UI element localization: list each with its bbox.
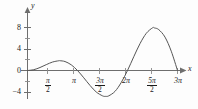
x-tick-label-2pi: 2π <box>117 77 135 85</box>
y-tick-label-8: 8 <box>9 24 21 32</box>
y-tick-label-neg4: −4 <box>5 88 21 96</box>
x-tick-label-pi: π <box>66 77 82 85</box>
fraction-5pi-over-2: 5π 2 <box>147 77 157 94</box>
x-axis-label: x <box>188 65 192 73</box>
y-axis-label: y <box>31 2 35 10</box>
x-tick-label-3pi: 3π <box>169 77 187 85</box>
x-axis <box>21 68 187 74</box>
fraction-denominator: 2 <box>45 86 51 94</box>
x-tick-label-pi-over-2: π 2 <box>39 77 57 94</box>
fraction-pi-over-2: π 2 <box>45 77 51 94</box>
y-axis-arrow-icon <box>25 7 31 13</box>
x-tick-label-3pi-over-2: 3π 2 <box>90 77 110 94</box>
fraction-numerator: 3π <box>95 77 105 85</box>
fraction-numerator: π <box>45 77 51 85</box>
x-axis-arrow-icon <box>180 68 187 74</box>
fraction-denominator: 2 <box>95 86 105 94</box>
y-tick-label-4: 4 <box>9 45 21 53</box>
chart-figure: y x 8 4 0 −4 π 2 π 3π 2 2π 5π 2 3π <box>0 0 198 109</box>
fraction-3pi-over-2: 3π 2 <box>95 77 105 94</box>
fraction-denominator: 2 <box>147 86 157 94</box>
x-tick-label-5pi-over-2: 5π 2 <box>142 77 162 94</box>
y-axis <box>24 7 31 99</box>
fraction-numerator: 5π <box>147 77 157 85</box>
y-tick-label-0: 0 <box>9 67 21 75</box>
